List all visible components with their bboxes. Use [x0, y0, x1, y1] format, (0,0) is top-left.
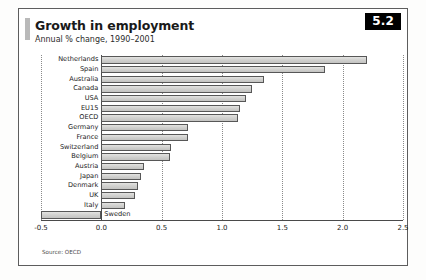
category-label: Netherlands [21, 56, 98, 63]
source-note: Source: OECD [42, 249, 81, 255]
category-label: UK [21, 192, 98, 199]
figure-panel: Growth in employment Annual % change, 19… [18, 8, 408, 266]
category-label: USA [21, 95, 98, 102]
x-tick-label: -0.5 [34, 224, 48, 232]
category-label: OECD [21, 114, 98, 121]
category-label: Canada [21, 85, 98, 92]
x-tick-label: 1.0 [216, 224, 227, 232]
category-label: France [21, 134, 98, 141]
category-label: Switzerland [21, 144, 98, 151]
figure-page: Growth in employment Annual % change, 19… [0, 0, 426, 280]
category-label: Spain [21, 66, 98, 73]
x-tick-label: 0.0 [96, 224, 107, 232]
x-tick-label: 1.5 [277, 224, 288, 232]
category-label: Austria [21, 163, 98, 170]
page-title: Growth in employment [35, 18, 194, 33]
category-label-layer: NetherlandsSpainAustraliaCanadaUSAEU15OE… [41, 55, 403, 220]
category-label: Denmark [21, 182, 98, 189]
x-tick-label: 2.5 [397, 224, 408, 232]
category-label: Sweden [104, 211, 184, 218]
category-label: Germany [21, 124, 98, 131]
figure-number-badge: 5.2 [365, 13, 401, 30]
category-label: Belgium [21, 153, 98, 160]
chart-plot-area: NetherlandsSpainAustraliaCanadaUSAEU15OE… [41, 55, 403, 220]
category-label: Japan [21, 173, 98, 180]
title-accent-bar [25, 18, 30, 40]
page-subtitle: Annual % change, 1990–2001 [35, 35, 155, 44]
x-tick-label: 2.0 [337, 224, 348, 232]
category-label: Australia [21, 76, 98, 83]
category-label: Italy [21, 202, 98, 209]
x-tick-label: 0.5 [156, 224, 167, 232]
x-axis-tick-layer: -0.50.00.51.01.52.02.5 [41, 220, 403, 236]
category-label: EU15 [21, 105, 98, 112]
gridline [403, 55, 404, 220]
